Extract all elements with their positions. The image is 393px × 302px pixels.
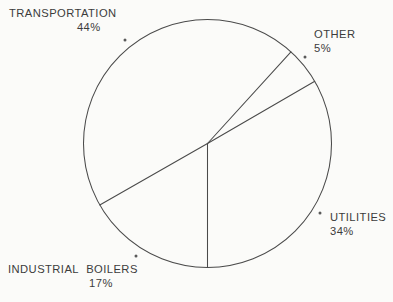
slice-label-transportation: TRANSPORTATION 44% — [9, 6, 117, 34]
leader-dot-industrial-boilers — [135, 255, 138, 258]
slice-label-other-value: 5% — [314, 41, 355, 55]
pie-chart: TRANSPORTATION 44% OTHER 5% UTILITIES 34… — [0, 0, 393, 302]
pie-divider-other-utilities — [208, 81, 315, 143]
leader-dot-other — [304, 56, 307, 59]
slice-label-industrial-boilers: INDUSTRIAL BOILERS 17% — [8, 262, 138, 290]
pie-divider-industrial-transportation — [100, 144, 208, 205]
slice-label-other: OTHER 5% — [314, 27, 355, 55]
leader-dot-transportation — [124, 39, 127, 42]
slice-label-industrial-boilers-name: INDUSTRIAL BOILERS — [8, 262, 138, 276]
slice-label-other-name: OTHER — [314, 27, 355, 41]
slice-label-utilities-name: UTILITIES — [330, 210, 386, 224]
slice-label-transportation-name: TRANSPORTATION — [9, 6, 117, 20]
pie-divider-transportation-other — [208, 52, 291, 144]
slice-label-utilities-value: 34% — [330, 224, 386, 238]
leader-dot-utilities — [319, 212, 322, 215]
slice-label-industrial-boilers-value: 17% — [8, 276, 138, 290]
slice-label-transportation-value: 44% — [9, 20, 117, 34]
slice-label-utilities: UTILITIES 34% — [330, 210, 386, 238]
